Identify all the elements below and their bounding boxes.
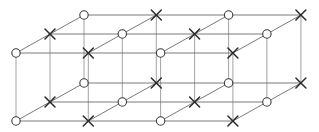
- circle-node-icon: [80, 79, 88, 87]
- circle-node-icon: [12, 49, 20, 57]
- circle-node-icon: [224, 79, 232, 87]
- lattice-edges: [16, 15, 301, 121]
- circle-node-icon: [80, 11, 88, 19]
- circle-node-icon: [12, 117, 20, 125]
- circle-node-icon: [118, 98, 126, 106]
- circle-node-icon: [118, 30, 126, 38]
- circle-node-icon: [263, 30, 271, 38]
- circle-node-icon: [263, 98, 271, 106]
- circle-node-icon: [156, 49, 164, 57]
- lattice-nodes: [12, 10, 306, 126]
- circle-node-icon: [156, 117, 164, 125]
- lattice-diagram: [0, 0, 319, 132]
- circle-node-icon: [224, 11, 232, 19]
